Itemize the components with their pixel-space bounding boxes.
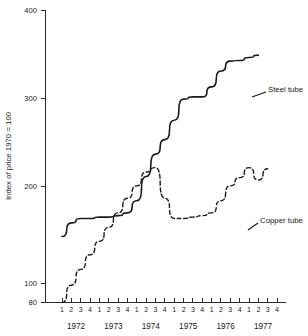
y-tick-label-200: 200 bbox=[24, 182, 37, 191]
x-axis-quarter-label: 1 bbox=[97, 306, 101, 313]
y-tick-label-80: 80 bbox=[29, 298, 37, 307]
x-axis-quarter-label: 2 bbox=[69, 306, 73, 313]
x-axis-year-label: 1973 bbox=[104, 322, 123, 331]
price-index-line-chart: 400 300 200 100 80 Index of price 1970 =… bbox=[0, 0, 308, 336]
x-axis-year-labels: 197219731974197519761977 bbox=[67, 322, 273, 331]
y-tick-label-300: 300 bbox=[24, 94, 37, 103]
x-axis-year-label: 1974 bbox=[142, 322, 161, 331]
series-label-copper-tube: Copper tube bbox=[260, 216, 303, 225]
x-axis-quarter-label: 1 bbox=[60, 306, 64, 313]
x-axis-quarter-label: 3 bbox=[228, 306, 232, 313]
x-axis-quarter-label: 2 bbox=[144, 306, 148, 313]
x-axis-quarter-label: 1 bbox=[247, 306, 251, 313]
x-axis-quarter-label: 3 bbox=[266, 306, 270, 313]
x-axis-quarter-label: 4 bbox=[163, 306, 167, 313]
copper-label-leader-line bbox=[248, 223, 258, 230]
x-axis-quarter-label: 1 bbox=[172, 306, 176, 313]
chart-canvas: 400 300 200 100 80 Index of price 1970 =… bbox=[0, 0, 308, 336]
x-axis-year-label: 1976 bbox=[216, 322, 235, 331]
x-axis-quarter-label: 3 bbox=[191, 306, 195, 313]
x-axis-quarter-label: 4 bbox=[275, 306, 279, 313]
x-axis-year-label: 1977 bbox=[254, 322, 273, 331]
x-axis-quarter-label: 4 bbox=[126, 306, 130, 313]
series-line-copper-tube bbox=[62, 168, 268, 303]
x-axis-quarter-label: 3 bbox=[79, 306, 83, 313]
x-axis-quarter-label: 4 bbox=[88, 306, 92, 313]
series-line-steel-tube bbox=[62, 55, 258, 236]
y-axis-title: Index of price 1970 = 100 bbox=[4, 111, 13, 200]
series-label-steel-tube: Steel tube bbox=[268, 85, 303, 94]
x-axis-quarter-label: 2 bbox=[219, 306, 223, 313]
y-tick-label-400: 400 bbox=[24, 6, 37, 15]
x-axis-year-label: 1972 bbox=[67, 322, 86, 331]
x-axis-quarter-label: 2 bbox=[256, 306, 260, 313]
x-axis-quarter-label: 1 bbox=[135, 306, 139, 313]
x-axis-quarter-label: 4 bbox=[238, 306, 242, 313]
x-axis-quarter-label: 3 bbox=[116, 306, 120, 313]
x-axis-year-label: 1975 bbox=[179, 322, 198, 331]
steel-label-leader-line bbox=[252, 92, 266, 97]
y-axis-ticks bbox=[41, 11, 46, 303]
x-axis-quarter-label: 4 bbox=[200, 306, 204, 313]
y-tick-label-100: 100 bbox=[24, 279, 37, 288]
x-axis-quarter-labels: 123412341234123412341234 bbox=[60, 306, 279, 313]
x-axis-quarter-label: 3 bbox=[154, 306, 158, 313]
x-axis-quarter-label: 2 bbox=[107, 306, 111, 313]
x-axis-quarter-label: 1 bbox=[210, 306, 214, 313]
x-axis-ticks bbox=[62, 298, 277, 303]
x-axis-quarter-label: 2 bbox=[182, 306, 186, 313]
